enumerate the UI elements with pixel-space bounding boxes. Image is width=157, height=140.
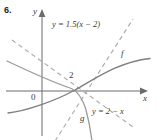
y-axis-label: y: [33, 7, 37, 16]
y-axis: [39, 9, 46, 136]
equation-tangent-line: y = 1.5(x − 2): [52, 20, 100, 29]
origin-label: 0: [31, 93, 36, 102]
x-axis-label: x: [143, 94, 147, 103]
figure-container: 6. y x 0 2 f g y = 1.5(x − 2) y = 2 − x: [0, 0, 157, 140]
y-tick-label-2: 2: [69, 71, 74, 80]
curve-g: [7, 61, 92, 140]
problem-number: 6.: [4, 6, 12, 15]
equation-secant-line: y = 2 − x: [92, 107, 124, 116]
curve-g-label: g: [80, 114, 85, 123]
curve-f: [8, 59, 150, 114]
curve-f-label: f: [121, 49, 124, 58]
